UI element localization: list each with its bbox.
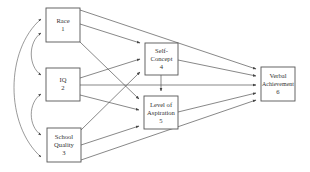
node-iq-label: IQ xyxy=(60,76,67,83)
node-achievement-label-1: Verbal xyxy=(269,72,286,79)
edge-race-aspiration xyxy=(80,42,139,99)
edge-aspiration-achievement xyxy=(178,93,256,112)
node-self-concept: Self- Concept 4 xyxy=(145,43,178,75)
node-verbal-achievement: Verbal Achievement 6 xyxy=(261,67,295,101)
correlation-arcs xyxy=(14,19,41,157)
node-race-number: 1 xyxy=(61,25,64,32)
edge-iq-aspiration xyxy=(80,95,139,110)
node-school-label-1: School xyxy=(55,133,73,140)
edge-school-selfconcept xyxy=(81,72,140,130)
path-diagram: Race 1 IQ 2 School Quality 3 Self- Conce… xyxy=(0,0,310,172)
corr-race-school xyxy=(14,19,41,157)
node-iq-number: 2 xyxy=(61,84,64,91)
node-school-label-2: Quality xyxy=(54,141,74,148)
node-achievement-label-2: Achievement xyxy=(262,81,294,87)
corr-iq-school xyxy=(31,94,41,135)
node-race-label: Race xyxy=(56,17,69,24)
node-school-quality: School Quality 3 xyxy=(47,128,81,162)
directed-edges xyxy=(80,10,256,160)
edge-school-aspiration xyxy=(81,126,139,145)
node-level-of-aspiration: Level of Aspiration 5 xyxy=(144,96,178,129)
corr-race-iq xyxy=(31,33,41,75)
node-race: Race 1 xyxy=(46,8,80,42)
node-aspiration-label-2: Aspiration xyxy=(147,109,176,116)
node-selfconcept-label-2: Concept xyxy=(151,55,173,62)
edge-selfconcept-achievement xyxy=(178,60,256,76)
node-aspiration-label-1: Level of xyxy=(150,101,173,108)
edge-iq-selfconcept xyxy=(80,59,140,78)
node-selfconcept-label-1: Self- xyxy=(155,47,168,54)
node-iq: IQ 2 xyxy=(46,68,80,101)
